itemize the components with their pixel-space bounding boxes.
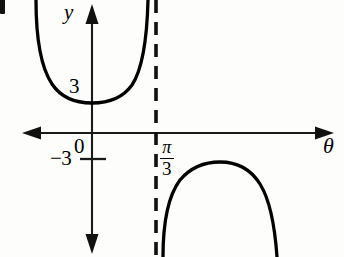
y-axis xyxy=(86,4,99,254)
y-axis-label: y xyxy=(64,2,73,23)
x-axis xyxy=(22,127,334,140)
x-tick-label-pi-over-three: π 3 xyxy=(160,138,174,180)
curve-lower-branch xyxy=(163,162,277,257)
three-denominator: 3 xyxy=(160,159,174,180)
y-axis-bottom-arrowhead xyxy=(86,234,99,254)
plot-canvas xyxy=(0,0,344,257)
x-axis-label-theta: θ xyxy=(323,135,334,157)
x-axis-left-arrowhead xyxy=(22,127,41,140)
y-tick-label-three: 3 xyxy=(69,76,80,97)
origin-label: 0 xyxy=(74,136,85,157)
graph-figure: y θ 3 0 −3 π 3 xyxy=(0,0,344,257)
y-tick-label-negative-three: −3 xyxy=(50,148,71,169)
y-axis-top-arrowhead xyxy=(86,4,99,24)
pi-numerator: π xyxy=(160,138,174,157)
